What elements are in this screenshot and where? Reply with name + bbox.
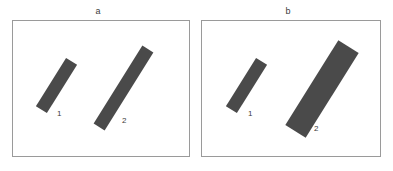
panel-b-frame: 1 2 — [201, 20, 381, 157]
panel-a-bar-1 — [35, 57, 76, 112]
panel-a-bar-1-label: 1 — [57, 110, 61, 118]
panel-b-bar-2 — [285, 40, 358, 138]
panel-a-bar-2-label: 2 — [122, 117, 126, 125]
panel-b-bar-1-label: 1 — [248, 110, 252, 118]
bar-shape — [225, 57, 266, 112]
figure-root: a 1 2 b 1 2 — [0, 0, 393, 171]
panel-b-bar-2-label: 2 — [314, 125, 318, 133]
panel-a-frame: 1 2 — [12, 20, 190, 157]
bar-shape — [35, 57, 76, 112]
panel-b-bar-1 — [225, 57, 266, 112]
panel-a-caption: a — [83, 7, 113, 16]
bar-shape — [285, 40, 358, 138]
panel-b-caption: b — [273, 7, 303, 16]
